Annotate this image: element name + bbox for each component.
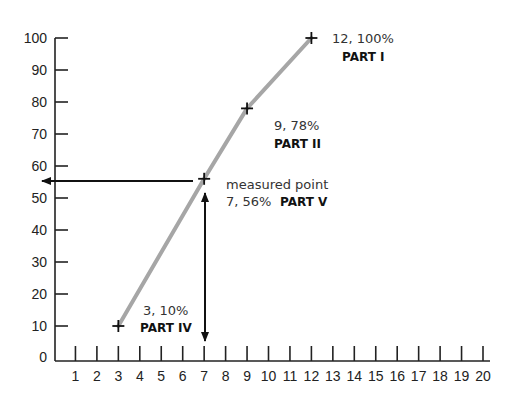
x-tick-label: 19 [454,368,470,384]
x-tick-label: 18 [432,368,448,384]
point-label-part-ii-value: 9, 78% [274,118,319,133]
point-label-part-i-value: 12, 100% [332,31,394,46]
y-tick-label: 40 [31,222,47,238]
x-tick-label: 1 [72,368,80,384]
y-tick-label: 70 [31,126,47,142]
measured-point-note: measured point [226,177,328,192]
x-tick-label: 6 [179,368,187,384]
point-label-part-iv: PART IV [140,321,193,335]
x-tick-label: 10 [261,368,277,384]
point-label-part-iv-value: 3, 10% [143,303,188,318]
point-label-part-i: PART I [342,50,385,64]
y-tick-label: 60 [31,158,47,174]
point-label-part-v: PART V [280,195,328,209]
x-tick-label: 15 [368,368,384,384]
point-label-part-v-value: 7, 56% [226,194,271,209]
x-tick-label: 11 [283,368,298,384]
x-tick-label: 20 [475,368,491,384]
y-tick-label: 0 [39,349,47,365]
x-tick-label: 3 [114,368,122,384]
x-axis: 1234567891011121314151617181920 [55,346,491,384]
x-tick-label: 4 [136,368,144,384]
x-tick-label: 9 [243,368,251,384]
y-tick-label: 80 [31,94,47,110]
x-tick-label: 16 [389,368,405,384]
x-tick-label: 2 [93,368,101,384]
y-tick-label: 90 [31,62,47,78]
y-axis: 0102030405060708090100 [24,30,68,365]
x-tick-label: 13 [325,368,341,384]
x-tick-label: 17 [411,368,427,384]
x-tick-label: 12 [304,368,320,384]
x-tick-label: 5 [157,368,165,384]
x-tick-label: 8 [222,368,230,384]
x-tick-label: 7 [200,368,208,384]
x-tick-label: 14 [347,368,363,384]
y-tick-label: 10 [31,318,47,334]
y-tick-label: 20 [31,286,47,302]
y-tick-label: 50 [31,190,47,206]
line-chart: 0102030405060708090100 12345678910111213… [0,0,518,396]
point-label-part-ii: PART II [274,137,321,151]
y-tick-label: 30 [31,254,47,270]
y-tick-label: 100 [24,30,48,46]
